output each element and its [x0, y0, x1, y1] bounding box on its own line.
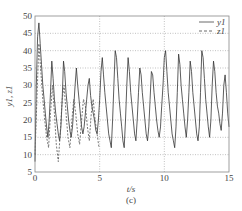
x-tick-label: 5 [97, 173, 102, 183]
series-y1 [35, 23, 229, 162]
figure-caption: (c) [126, 195, 136, 205]
y-tick-label: 10 [23, 150, 33, 160]
y-tick-label: 25 [23, 98, 33, 108]
y-tick-label: 15 [23, 132, 33, 142]
y-tick-label: 5 [28, 167, 33, 177]
y-tick-label: 40 [23, 46, 33, 56]
grid-lines [35, 16, 229, 172]
y-axis-ticks: 5101520253035404550 [23, 11, 33, 177]
x-tick-label: 15 [225, 173, 235, 183]
y-tick-label: 50 [23, 11, 33, 21]
plot-area [35, 23, 229, 162]
y-tick-label: 30 [23, 80, 33, 90]
x-axis-label: t/s [127, 184, 136, 194]
chart: 5101520253035404550 051015 y1z1 y1, z1 t… [0, 0, 242, 211]
x-tick-label: 0 [33, 173, 38, 183]
y-tick-label: 20 [23, 115, 33, 125]
y-tick-label: 45 [23, 28, 33, 38]
y-tick-label: 35 [23, 63, 33, 73]
plot-frame [35, 16, 229, 172]
y-axis-label: y1, z1 [4, 86, 14, 108]
legend-label-z1: z1 [216, 26, 225, 36]
x-tick-label: 10 [160, 173, 170, 183]
x-axis-ticks: 051015 [33, 173, 234, 183]
